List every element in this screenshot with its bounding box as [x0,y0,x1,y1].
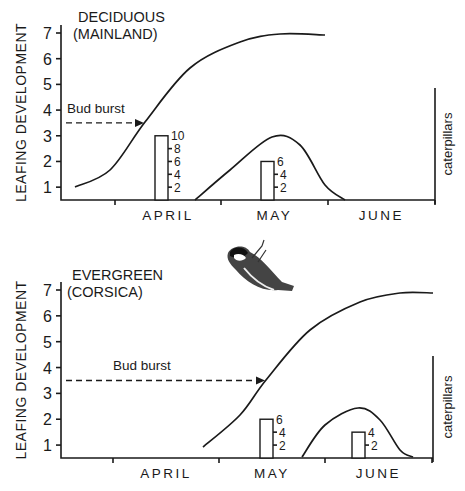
bar-scale-label: 10 [171,129,185,143]
y-tick-label: 1 [43,179,52,196]
bar-scale-label: 2 [371,439,378,453]
bar-scale-label: 6 [277,155,284,169]
y-tick-label: 5 [43,76,52,93]
bar-scale-label: 4 [279,426,286,440]
bar-scale-label: 6 [276,413,283,427]
figure: 1234567APRILMAYJUNELEAFING DEVELOPMENTca… [0,0,465,491]
brood-bar [261,161,274,200]
y-tick-label: 4 [43,360,52,377]
evergreen-chart: 1234567APRILMAYJUNELEAFING DEVELOPMENTca… [13,267,455,481]
y-tick-label: 1 [43,437,52,454]
bud-burst-label: Bud burst [113,358,171,373]
bar-scale-label: 2 [279,439,286,453]
deciduous-chart: 1234567APRILMAYJUNELEAFING DEVELOPMENTca… [13,9,455,223]
month-label: JUNE [359,208,404,223]
chart-title: EVERGREEN [72,267,163,283]
caterpillars-label: caterpillars [440,112,455,175]
y-axis-label: LEAFING DEVELOPMENT [13,280,29,459]
bar-scale-label: 4 [280,168,287,182]
y-tick-label: 2 [43,411,52,428]
y-tick-label: 6 [43,308,52,325]
leafing-development-curve [203,292,433,447]
month-label: JUNE [356,466,401,481]
chart-title: DECIDUOUS [78,9,165,25]
y-axis-label: LEAFING DEVELOPMENT [13,23,29,202]
brood-bar [260,419,273,458]
month-label: MAY [254,466,290,481]
chart-title: (MAINLAND) [73,26,158,42]
y-tick-label: 7 [43,25,52,42]
y-tick-label: 2 [43,153,52,170]
bird-illustration [227,240,294,291]
bar-scale-label: 4 [174,168,181,182]
bar-scale-label: 4 [368,426,375,440]
brood-bar [352,432,365,458]
y-tick-label: 3 [43,385,52,402]
brood-bar [155,136,168,200]
month-label: APRIL [140,466,192,481]
y-tick-label: 4 [43,102,52,119]
y-tick-label: 6 [43,51,52,68]
y-tick-label: 3 [43,128,52,145]
bar-scale-label: 2 [280,181,287,195]
bar-scale-label: 8 [174,142,181,156]
y-tick-label: 5 [43,334,52,351]
bud-burst-label: Bud burst [67,101,125,116]
caterpillars-label: caterpillars [440,375,455,438]
month-label: MAY [257,208,293,223]
y-tick-label: 7 [43,282,52,299]
chart-title: (CORSICA) [67,284,143,300]
month-label: APRIL [142,208,194,223]
bar-scale-label: 6 [174,155,181,169]
bar-scale-label: 2 [174,181,181,195]
